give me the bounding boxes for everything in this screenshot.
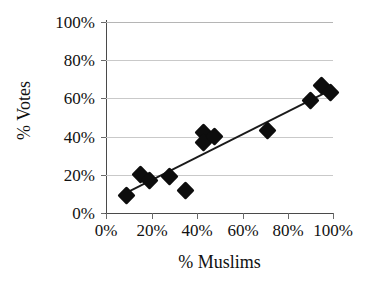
y-tick-label-60: 60% (33, 90, 95, 107)
y-tick-label-80: 80% (33, 52, 95, 69)
x-tick-mark-0 (106, 213, 107, 219)
x-tick-mark-100 (333, 213, 334, 219)
x-tick-mark-40 (197, 213, 198, 219)
x-axis-line (105, 213, 334, 214)
y-tick-label-0: 0% (33, 205, 95, 222)
plot-area (106, 22, 333, 213)
x-tick-mark-80 (288, 213, 289, 219)
y-tick-label-100: 100% (33, 14, 95, 31)
x-tick-mark-20 (152, 213, 153, 219)
y-tick-label-20: 20% (33, 167, 95, 184)
x-tick-mark-60 (243, 213, 244, 219)
trend-line (106, 22, 333, 213)
x-tick-label-100: 100% (305, 222, 361, 239)
y-tick-label-40: 40% (33, 129, 95, 146)
y-axis-title: % Votes (14, 56, 35, 166)
x-axis-title: % Muslims (106, 252, 333, 273)
chart-figure: 100% 80% 60% 40% 20% 0% 0% 20% 40% 60% 8… (0, 0, 379, 293)
